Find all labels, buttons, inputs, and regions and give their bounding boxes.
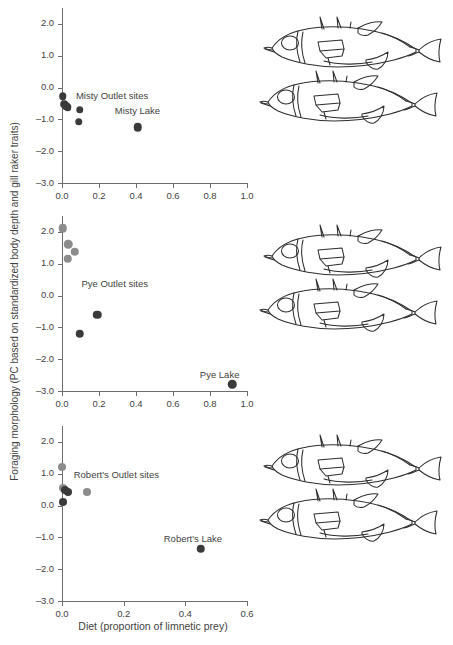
stickleback-fish-icon [262,224,444,282]
x-tick [62,184,63,188]
data-point [75,118,83,126]
x-tick [210,184,211,188]
series-annotation: Misty Outlet sites [76,89,148,100]
y-tick-label: 0.0 [20,289,54,300]
x-tick-label: 0.2 [79,398,119,409]
series-annotation: Robert's Outlet sites [74,469,159,480]
x-tick [185,602,186,606]
x-tick [62,392,63,396]
x-tick [99,184,100,188]
data-point [93,310,102,319]
stickleback-fish-icon [262,16,444,74]
data-point [134,123,143,132]
y-tick [58,151,63,152]
x-tick-label: 0.4 [116,190,156,201]
x-axis-line [62,183,248,184]
series-annotation: Pye Lake [200,368,240,379]
data-point [197,544,206,553]
x-tick-label: 0.0 [42,190,82,201]
data-point [75,329,84,338]
data-point [76,106,84,114]
data-point [63,255,72,264]
y-tick [58,569,63,570]
y-tick-label: –3.0 [20,385,54,396]
y-tick-label: –2.0 [20,353,54,364]
x-tick-label: 0.6 [153,398,193,409]
y-tick [58,327,63,328]
x-tick [124,602,125,606]
data-point [71,247,80,256]
y-tick-label: 2.0 [20,17,54,28]
data-point [83,488,91,496]
y-tick-label: –2.0 [20,145,54,156]
y-tick-label: 1.0 [20,49,54,60]
data-point [64,104,72,112]
x-tick [99,392,100,396]
x-tick [136,184,137,188]
y-tick-label: –3.0 [20,595,54,606]
y-axis-label: Foraging morphology (PC based on standar… [9,102,20,502]
y-tick-label: –1.0 [20,113,54,124]
data-point [228,380,237,389]
stickleback-fish-icon [262,434,444,492]
y-tick-label: –2.0 [20,563,54,574]
x-tick-label: 0.0 [42,398,82,409]
y-tick [58,442,63,443]
x-tick-label: 0.4 [116,398,156,409]
x-tick-label: 0.8 [190,190,230,201]
series-annotation: Pye Outlet sites [81,278,148,289]
data-point [59,92,67,100]
x-tick-label: 0.8 [190,398,230,409]
data-point [64,488,72,496]
x-tick [136,392,137,396]
x-tick [173,184,174,188]
x-tick-label: 0.2 [79,190,119,201]
series-annotation: Misty Lake [115,105,160,116]
x-tick [247,602,248,606]
x-tick [247,392,248,396]
y-tick-label: 1.0 [20,467,54,478]
x-axis-label: Diet (proportion of limnetic prey) [38,620,268,632]
stickleback-fish-icon [258,278,440,336]
stickleback-fish-icon [258,70,440,128]
data-point [64,240,73,249]
y-tick [58,56,63,57]
x-tick-label: 0.4 [165,608,205,619]
y-tick-label: 2.0 [20,435,54,446]
y-tick [58,296,63,297]
data-point [59,498,67,506]
y-tick [58,264,63,265]
x-tick [62,602,63,606]
x-axis-line [62,601,248,602]
data-point [59,224,68,233]
y-tick-label: –1.0 [20,321,54,332]
x-tick-label: 0.6 [227,608,267,619]
y-tick [58,119,63,120]
x-tick-label: 1.0 [227,398,267,409]
x-tick [173,392,174,396]
y-tick-label: –1.0 [20,531,54,542]
y-tick [58,88,63,89]
y-tick-label: –3.0 [20,177,54,188]
y-tick-label: 0.0 [20,499,54,510]
y-tick-label: 2.0 [20,225,54,236]
y-axis-line [62,426,63,602]
x-tick-label: 0.2 [104,608,144,619]
x-tick-label: 0.6 [153,190,193,201]
y-axis-line [62,216,63,392]
y-tick-label: 0.0 [20,81,54,92]
x-tick-label: 1.0 [227,190,267,201]
x-tick-label: 0.0 [42,608,82,619]
y-tick [58,474,63,475]
x-tick [247,184,248,188]
x-axis-line [62,391,248,392]
y-tick [58,359,63,360]
data-point [58,463,66,471]
stickleback-fish-icon [258,488,440,546]
y-tick [58,24,63,25]
y-tick-label: 1.0 [20,257,54,268]
figure-scatter-panels: Foraging morphology (PC based on standar… [0,0,453,645]
series-annotation: Robert's Lake [164,533,222,544]
x-tick [210,392,211,396]
y-tick [58,537,63,538]
